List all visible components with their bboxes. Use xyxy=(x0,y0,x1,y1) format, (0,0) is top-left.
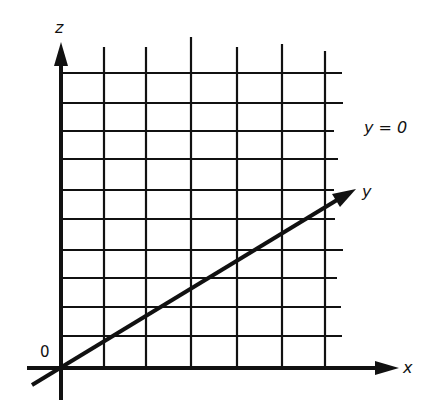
x-axis-arrow-icon xyxy=(375,361,399,375)
z-axis-label: z xyxy=(54,18,64,37)
grid-lines xyxy=(61,37,343,368)
origin-label: 0 xyxy=(40,343,50,361)
plane-equation-label: y = 0 xyxy=(363,118,407,137)
z-axis-arrow-icon xyxy=(54,42,68,66)
y-axis-label: y xyxy=(361,182,372,201)
y-axis-arrow-icon xyxy=(332,189,356,207)
coordinate-plane-diagram: z x y 0 y = 0 xyxy=(0,0,430,417)
x-axis-label: x xyxy=(402,358,413,377)
y-axis xyxy=(32,197,342,385)
